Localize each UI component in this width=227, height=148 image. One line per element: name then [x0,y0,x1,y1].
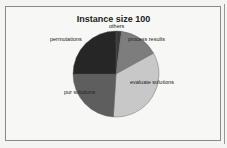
label-others: others [109,23,124,29]
pie-slice-pur-solutions [73,74,116,117]
label-process-results: process results [128,36,165,42]
label-evaluate-solutions: evaluate solutions [130,79,174,85]
label-pur-solutions: pur solutions [64,89,95,95]
label-permutations: permutations [50,36,82,42]
